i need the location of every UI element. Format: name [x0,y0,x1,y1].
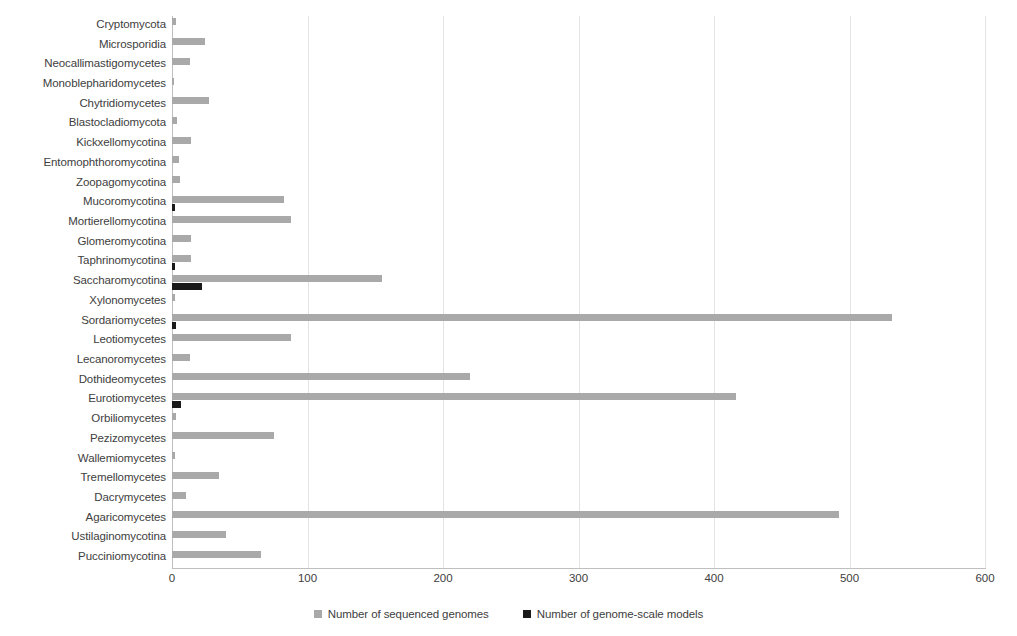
category-label: Saccharomycotina [0,275,166,287]
category-label: Kickxellomycotina [0,137,166,149]
bar-genome-scale-models [172,204,175,211]
x-tick-label: 100 [278,572,338,584]
category-label: Wallemiomycetes [0,453,166,465]
bar-sequenced-genomes [172,97,209,104]
x-tick-label: 200 [413,572,473,584]
category-label: Neocallimastigomycetes [0,58,166,70]
legend-item: Number of genome-scale models [523,608,703,620]
category-label: Pucciniomycotina [0,551,166,563]
legend-label: Number of genome-scale models [537,608,703,620]
bar-sequenced-genomes [172,255,191,262]
chart-legend: Number of sequenced genomesNumber of gen… [0,608,1017,620]
x-axis-line [172,568,986,569]
category-label: Taphrinomycotina [0,255,166,267]
bar-chart: CryptomycotaMicrosporidiaNeocallimastigo… [0,0,1017,636]
bar-sequenced-genomes [172,38,205,45]
bar-sequenced-genomes [172,78,174,85]
grid-line [714,16,715,568]
bar-sequenced-genomes [172,176,180,183]
grid-line [579,16,580,568]
category-label: Ustilaginomycotina [0,531,166,543]
category-label: Pezizomycetes [0,433,166,445]
x-tick-label: 400 [684,572,744,584]
bar-genome-scale-models [172,322,176,329]
bar-genome-scale-models [172,283,202,290]
category-label: Microsporidia [0,39,166,51]
bar-sequenced-genomes [172,452,175,459]
category-label: Chytridiomycetes [0,98,166,110]
legend-swatch [523,610,531,618]
bar-sequenced-genomes [172,551,261,558]
bar-sequenced-genomes [172,196,284,203]
bar-sequenced-genomes [172,117,177,124]
category-label: Tremellomycetes [0,472,166,484]
category-label: Mucoromycotina [0,196,166,208]
x-tick-label: 600 [955,572,1015,584]
grid-line [308,16,309,568]
category-label: Lecanoromycetes [0,354,166,366]
bar-sequenced-genomes [172,354,190,361]
bar-sequenced-genomes [172,156,179,163]
grid-line [443,16,444,568]
bar-sequenced-genomes [172,492,186,499]
category-label: Leotiomycetes [0,334,166,346]
bar-sequenced-genomes [172,511,839,518]
category-label: Glomeromycotina [0,236,166,248]
category-label: Blastocladiomycota [0,117,166,129]
category-label: Entomophthoromycotina [0,157,166,169]
grid-line [985,16,986,568]
category-label: Zoopagomycotina [0,177,166,189]
legend-item: Number of sequenced genomes [314,608,489,620]
bar-sequenced-genomes [172,334,291,341]
bar-genome-scale-models [172,263,175,270]
x-tick-label: 300 [549,572,609,584]
bar-sequenced-genomes [172,137,191,144]
category-label: Xylonomycetes [0,295,166,307]
bar-genome-scale-models [172,401,181,408]
bar-sequenced-genomes [172,472,219,479]
x-tick-label: 500 [820,572,880,584]
category-label: Sordariomycetes [0,315,166,327]
bar-sequenced-genomes [172,216,291,223]
bar-sequenced-genomes [172,531,226,538]
category-label: Agaricomycetes [0,512,166,524]
legend-swatch [314,610,322,618]
category-label: Mortierellomycotina [0,216,166,228]
category-label: Cryptomycota [0,19,166,31]
bar-sequenced-genomes [172,393,736,400]
category-label: Monoblepharidomycetes [0,78,166,90]
bar-sequenced-genomes [172,58,190,65]
bar-sequenced-genomes [172,294,175,301]
bar-sequenced-genomes [172,432,274,439]
category-label: Dacrymycetes [0,492,166,504]
category-axis: CryptomycotaMicrosporidiaNeocallimastigo… [0,16,166,568]
bar-sequenced-genomes [172,235,191,242]
category-label: Dothideomycetes [0,374,166,386]
category-label: Eurotiomycetes [0,393,166,405]
legend-label: Number of sequenced genomes [328,608,489,620]
plot-area [172,16,985,568]
bar-sequenced-genomes [172,373,470,380]
category-label: Orbiliomycetes [0,413,166,425]
grid-line [850,16,851,568]
bar-sequenced-genomes [172,275,382,282]
bar-sequenced-genomes [172,413,176,420]
x-tick-label: 0 [142,572,202,584]
bar-sequenced-genomes [172,18,176,25]
bar-sequenced-genomes [172,314,892,321]
